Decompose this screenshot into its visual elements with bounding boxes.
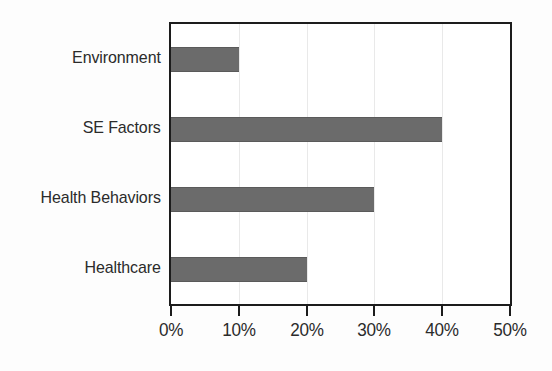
bar (171, 47, 239, 72)
x-axis-label-30: 30% (341, 320, 408, 341)
bar (171, 187, 374, 212)
plot-area (169, 22, 512, 306)
x-axis-label-50: 50% (477, 320, 544, 341)
gridline-40 (442, 24, 443, 304)
tick-mark-10 (238, 306, 240, 316)
bar-chart-figure: EnvironmentSE FactorsHealth BehaviorsHea… (0, 0, 552, 371)
tick-mark-40 (441, 306, 443, 316)
x-axis-label-0: 0% (138, 320, 205, 341)
y-axis-label-health-behaviors: Health Behaviors (10, 188, 173, 208)
tick-mark-50 (509, 306, 511, 316)
gridline-20 (307, 24, 308, 304)
tick-mark-30 (373, 306, 375, 316)
y-axis-category-labels: EnvironmentSE FactorsHealth BehaviorsHea… (0, 0, 160, 371)
x-axis-label-20: 20% (273, 320, 340, 341)
bar (171, 117, 442, 142)
tick-mark-20 (306, 306, 308, 316)
x-axis-tick-marks (169, 306, 512, 318)
y-axis-label-environment: Environment (10, 48, 173, 68)
y-axis-label-se-factors: SE Factors (10, 118, 173, 138)
x-axis-label-40: 40% (409, 320, 476, 341)
tick-mark-0 (170, 306, 172, 316)
x-axis-label-10: 10% (206, 320, 273, 341)
bar (171, 257, 307, 282)
y-axis-label-healthcare: Healthcare (10, 258, 173, 278)
gridline-30 (374, 24, 375, 304)
x-axis-tick-labels: 0%10%20%30%40%50% (0, 320, 552, 350)
